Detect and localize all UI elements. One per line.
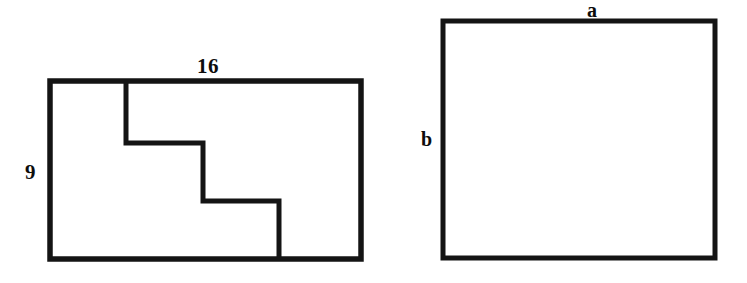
canvas-background bbox=[0, 0, 747, 283]
left-figure-height-label: 9 bbox=[25, 162, 36, 183]
left-figure-width-label: 16 bbox=[197, 56, 219, 77]
right-figure-height-label: b bbox=[421, 129, 432, 149]
right-figure-width-label: a bbox=[587, 0, 597, 20]
geometry-figure-canvas bbox=[0, 0, 747, 283]
